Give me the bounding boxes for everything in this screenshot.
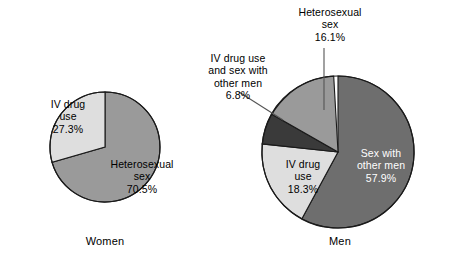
men-label-iv-drug-use-and-sex-with-other-men: IV drug use and sex with other men 6.8%	[190, 52, 286, 102]
men-label-heterosexual-sex: Heterosexual sex 16.1%	[282, 6, 378, 43]
men-label-iv-drug-use: IV drug use 18.3%	[272, 158, 334, 195]
women-label-iv-drug-use: IV drug use 27.3%	[36, 98, 100, 135]
pie-chart-figure: IV drug use 27.3% Heterosexual sex 70.5%…	[0, 0, 453, 266]
men-chart-caption: Men	[316, 235, 364, 247]
women-chart-caption: Women	[66, 235, 144, 247]
women-label-heterosexual-sex: Heterosexual sex 70.5%	[96, 158, 188, 195]
men-label-sex-with-other-men: Sex with other men 57.9%	[344, 147, 418, 184]
